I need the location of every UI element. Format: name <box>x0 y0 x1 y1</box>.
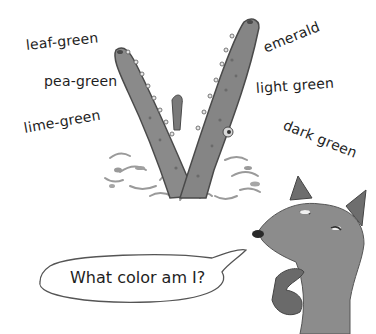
fox <box>252 176 366 334</box>
color-word-pea-green: pea-green <box>44 73 117 89</box>
speech-bubble-text: What color am I? <box>70 268 205 287</box>
crocodile-snout <box>115 19 259 198</box>
